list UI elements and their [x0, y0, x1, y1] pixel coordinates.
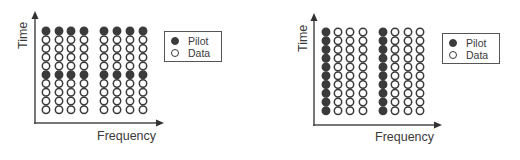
data-symbol [391, 28, 398, 35]
x-axis [313, 122, 442, 129]
resource-grid [42, 27, 146, 113]
data-symbol [139, 80, 146, 87]
data-symbol [42, 89, 49, 96]
pilot-symbol [379, 107, 386, 114]
data-symbol [346, 90, 353, 97]
data-symbol [359, 55, 366, 62]
y-axis [32, 11, 39, 124]
data-symbol [42, 106, 49, 113]
y-axis [311, 13, 318, 126]
pilot-symbol [42, 71, 49, 78]
data-symbol [334, 46, 341, 53]
data-symbol [100, 54, 107, 61]
data-symbol [404, 98, 411, 105]
data-symbol [346, 46, 353, 53]
data-symbol [67, 106, 74, 113]
data-symbol [126, 45, 133, 52]
pilot-symbol [322, 63, 329, 70]
pilot-symbol [379, 37, 386, 44]
data-symbol [334, 90, 341, 97]
data-symbol [100, 97, 107, 104]
data-symbol [404, 72, 411, 79]
pilot-symbol [55, 27, 62, 34]
data-symbol [359, 90, 366, 97]
data-symbol [126, 36, 133, 43]
pilot-symbol [379, 90, 386, 97]
data-symbol [42, 97, 49, 104]
data-symbol [100, 36, 107, 43]
data-symbol [391, 72, 398, 79]
legend-pilot-label: Pilot [466, 37, 486, 49]
pilot-symbol [379, 81, 386, 88]
data-symbol [416, 28, 423, 35]
data-symbol [416, 90, 423, 97]
data-symbol [334, 37, 341, 44]
data-symbol [346, 72, 353, 79]
data-symbol [67, 80, 74, 87]
data-symbol [391, 37, 398, 44]
data-symbol [359, 63, 366, 70]
data-symbol [126, 89, 133, 96]
data-symbol [334, 107, 341, 114]
data-symbol [80, 97, 87, 104]
data-symbol [139, 106, 146, 113]
data-symbol [334, 72, 341, 79]
legend-item-data: Data [171, 47, 215, 59]
pilot-symbol [379, 28, 386, 35]
data-symbol [404, 90, 411, 97]
data-dot-icon [171, 49, 179, 57]
pilot-symbol [126, 71, 133, 78]
pilot-symbol [42, 27, 49, 34]
pilot-symbol [379, 63, 386, 70]
data-symbol [391, 55, 398, 62]
x-axis-arrow-icon [434, 122, 442, 129]
data-symbol [126, 54, 133, 61]
data-symbol [55, 62, 62, 69]
diagram-left: Time Frequency Pilot Data [0, 0, 260, 160]
data-symbol [391, 90, 398, 97]
data-symbol [80, 106, 87, 113]
data-symbol [346, 98, 353, 105]
data-symbol [391, 81, 398, 88]
legend-item-data: Data [449, 49, 493, 61]
x-axis-label: Frequency [97, 129, 156, 143]
pilot-symbol [322, 37, 329, 44]
x-axis-label: Frequency [375, 130, 434, 144]
data-symbol [416, 37, 423, 44]
pilot-symbol [67, 27, 74, 34]
data-symbol [404, 81, 411, 88]
pilot-symbol [379, 98, 386, 105]
data-symbol [359, 98, 366, 105]
pilot-symbol [80, 71, 87, 78]
data-symbol [359, 37, 366, 44]
data-symbol [113, 89, 120, 96]
diagram-right: Time Frequency Pilot Data [260, 0, 520, 160]
data-symbol [139, 36, 146, 43]
data-symbol [346, 55, 353, 62]
pilot-symbol [322, 55, 329, 62]
data-symbol [346, 107, 353, 114]
data-symbol [404, 107, 411, 114]
data-symbol [113, 97, 120, 104]
y-axis-arrow-icon [311, 13, 318, 21]
data-symbol [100, 80, 107, 87]
data-symbol [113, 80, 120, 87]
data-symbol [67, 89, 74, 96]
pilot-symbol [322, 28, 329, 35]
x-axis [34, 120, 164, 127]
legend-pilot-label: Pilot [188, 35, 208, 47]
data-symbol [126, 106, 133, 113]
data-symbol [113, 62, 120, 69]
data-symbol [346, 63, 353, 70]
data-symbol [391, 107, 398, 114]
data-symbol [416, 107, 423, 114]
data-symbol [359, 81, 366, 88]
data-symbol [416, 46, 423, 53]
pilot-symbol [322, 72, 329, 79]
pilot-symbol [379, 46, 386, 53]
pilot-symbol [126, 27, 133, 34]
pilot-symbol [80, 27, 87, 34]
pilot-symbol [67, 71, 74, 78]
data-symbol [67, 54, 74, 61]
pilot-symbol [322, 98, 329, 105]
